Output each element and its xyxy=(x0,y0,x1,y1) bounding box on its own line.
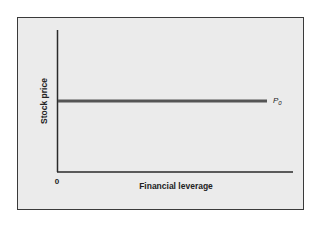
series-label-p0: P0 xyxy=(273,96,282,106)
series-label-subscript: 0 xyxy=(278,100,282,106)
y-axis-label: Stock price xyxy=(39,78,49,124)
chart: 0 Financial leverage Stock price P0 xyxy=(0,0,321,226)
x-tick-label: 0 xyxy=(55,177,60,186)
x-axis-label: Financial leverage xyxy=(139,181,213,191)
